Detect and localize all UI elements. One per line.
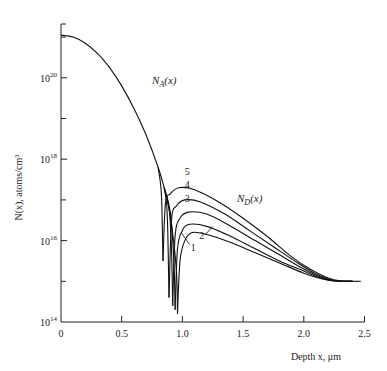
curve-number-label: 4: [185, 179, 190, 190]
curve-number-label: 2: [199, 230, 204, 241]
doping-profile-chart: 00.51.01.52.02.51020101810161014 Depth x…: [0, 0, 387, 371]
axis-ticks: 00.51.01.52.02.51020101810161014: [40, 24, 371, 339]
y-tick-label: 1016: [40, 234, 58, 247]
donor-profile-curve-1-right: [178, 232, 353, 314]
acceptor-profile-curve: [61, 35, 164, 188]
curve-number-label: 5: [185, 166, 190, 177]
chart-labels: Depth x, μmN(x), atoms/cm³NA(x)ND(x)1234…: [13, 74, 341, 362]
donor-profile-curve-3-right: [173, 212, 353, 306]
y-tick-label: 1018: [40, 152, 58, 165]
donor-label: ND(x): [236, 192, 263, 207]
x-tick-label: 0: [59, 328, 64, 339]
x-tick-label: 0.5: [115, 328, 128, 339]
x-tick-label: 1.0: [176, 328, 189, 339]
x-tick-label: 2.0: [298, 328, 311, 339]
y-axis-label: N(x), atoms/cm³: [13, 155, 25, 221]
data-series: [61, 35, 361, 314]
donor-profile-curve-4-right: [169, 200, 352, 298]
y-tick-label: 1020: [40, 71, 58, 84]
acceptor-label: NA(x): [151, 74, 177, 89]
curve-number-label: 1: [191, 242, 196, 253]
x-axis-label: Depth x, μm: [291, 351, 341, 362]
curve-number-label: 3: [185, 193, 190, 204]
x-tick-label: 1.5: [237, 328, 250, 339]
y-tick-label: 1014: [40, 315, 58, 328]
x-tick-label: 2.5: [358, 328, 371, 339]
